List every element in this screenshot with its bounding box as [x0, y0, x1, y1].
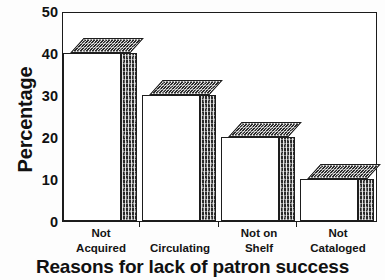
y-tick-label-0: 0 [32, 215, 58, 230]
bar-side-face-2 [200, 95, 216, 221]
bar-front-face-1 [63, 53, 121, 221]
bar-top-face-4 [307, 164, 381, 179]
x-tick-label-circulating-line1: Circulating [150, 242, 210, 254]
bar-side-face-3 [279, 137, 295, 221]
x-tick-label-not-on-shelf-line2: Shelf [220, 241, 298, 256]
x-tick-label-not-cataloged-line2: Cataloged [299, 241, 377, 256]
y-tick-label-40: 40 [32, 47, 58, 62]
x-tick-label-not-cataloged: Not Cataloged [299, 226, 377, 256]
x-tick-label-not-acquired: Not Acquired [62, 226, 140, 256]
bar-front-face-4 [300, 179, 358, 221]
x-tick-label-not-acquired-line1: Not [91, 227, 110, 239]
plot-area [62, 12, 377, 222]
y-tick-label-50: 50 [32, 5, 58, 20]
bar-front-face-2 [142, 95, 200, 221]
bar-top-face-2 [149, 80, 223, 95]
y-tick-label-20: 20 [32, 131, 58, 146]
bar-side-face-1 [121, 53, 137, 221]
x-tick-label-circulating: Circulating [141, 241, 219, 256]
bar-front-face-3 [221, 137, 279, 221]
bar-top-face-1 [70, 38, 144, 53]
x-tick-label-not-acquired-line2: Acquired [62, 241, 140, 256]
x-tick-label-not-on-shelf-line1: Not on [241, 227, 277, 239]
y-tick-label-30: 30 [32, 89, 58, 104]
x-axis-title: Reasons for lack of patron success [0, 256, 385, 278]
x-tick-label-not-on-shelf: Not on Shelf [220, 226, 298, 256]
y-tick-label-10: 10 [32, 173, 58, 188]
bar-top-face-3 [228, 122, 302, 137]
bar-side-face-4 [358, 179, 374, 221]
y-axis-tick-labels: 50 40 30 20 10 0 [28, 0, 58, 280]
x-tick-label-not-cataloged-line1: Not [328, 227, 347, 239]
bar-chart-figure: Percentage 50 40 30 20 10 0 [0, 0, 385, 280]
